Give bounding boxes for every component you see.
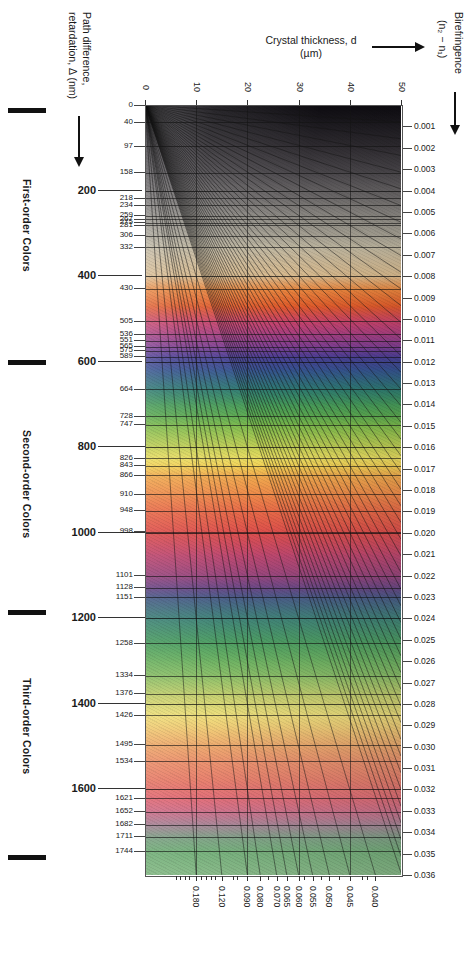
order-label-1: First-order Colors xyxy=(4,179,50,274)
retardation-major-tick: 1200 xyxy=(52,611,96,623)
birefringence-tick-label: 0.010 xyxy=(414,314,435,324)
retardation-minor-tick: 866 xyxy=(99,471,133,479)
retardation-major-tick: 1600 xyxy=(52,782,96,794)
retardation-minor-tick: 158 xyxy=(99,168,133,176)
birefringence-bottom-tick-mark xyxy=(233,876,234,880)
birefringence-bottom-tick-mark xyxy=(185,876,186,880)
color-order-legend: First-order ColorsSecond-order ColorsThi… xyxy=(0,0,52,955)
retardation-minor-tick: 1682 xyxy=(99,820,133,828)
birefringence-bottom-tick-label: 0.065 xyxy=(282,886,292,909)
retardation-minor-tick: 843 xyxy=(99,461,133,469)
retardation-minor-tick: 747 xyxy=(99,420,133,428)
birefringence-bottom-tick-mark xyxy=(299,876,300,881)
birefringence-tick-label: 0.017 xyxy=(414,464,435,474)
thickness-axis-title: Crystal thickness, d (µm) xyxy=(236,34,386,60)
birefringence-bottom-axis: 0.1800.1200.0900.0800.0700.0650.0600.055… xyxy=(145,876,401,955)
thickness-tick-label: 10 xyxy=(192,82,202,94)
retardation-minor-tick: 664 xyxy=(99,385,133,393)
birefringence-bottom-tick-mark xyxy=(277,876,278,881)
thickness-tick-mark xyxy=(401,100,402,105)
birefringence-tick-label: 0.027 xyxy=(414,678,435,688)
thickness-axis: 01020304050 xyxy=(145,60,401,105)
birefringence-tick-label: 0.004 xyxy=(414,186,435,196)
birefringence-tick-label: 0.025 xyxy=(414,635,435,645)
retardation-minor-tick: 1334 xyxy=(99,671,133,679)
retardation-minor-tick: 332 xyxy=(99,243,133,251)
order-separator-bar xyxy=(8,108,46,113)
birefringence-tick-label: 0.023 xyxy=(414,592,435,602)
birefringence-bottom-tick-mark xyxy=(237,876,238,880)
birefringence-bottom-tick-label: 0.120 xyxy=(217,886,227,909)
birefringence-bottom-tick-mark xyxy=(287,876,288,881)
birefringence-tick-label: 0.022 xyxy=(414,571,435,581)
birefringence-bottom-tick-mark xyxy=(215,876,216,880)
order-separator-bar xyxy=(8,855,46,860)
order-label-3: Third-order Colors xyxy=(4,678,50,776)
retardation-axis-title: Path difference, retardation, Δ (nm) xyxy=(62,8,96,158)
birefringence-tick-label: 0.034 xyxy=(414,827,435,837)
birefringence-bottom-tick-mark xyxy=(304,876,305,880)
order-label-text: Third-order Colors xyxy=(21,678,33,774)
birefringence-axis-arrow-icon xyxy=(454,92,456,126)
birefringence-bottom-tick-mark xyxy=(268,876,269,880)
birefringence-tick-label: 0.020 xyxy=(414,528,435,538)
birefringence-bottom-tick-mark xyxy=(196,876,197,881)
birefringence-axis-title: Birefringence (n₂ − n₁) xyxy=(432,8,472,148)
birefringence-axis-title-line1: Birefringence xyxy=(452,12,465,74)
birefringence-bottom-tick-mark xyxy=(350,876,351,881)
birefringence-tick-label: 0.029 xyxy=(414,720,435,730)
birefringence-bottom-tick-mark xyxy=(180,876,181,880)
retardation-minor-tick: 1534 xyxy=(99,757,133,765)
birefringence-bottom-tick-label: 0.055 xyxy=(308,886,318,909)
retardation-minor-tick: 910 xyxy=(99,490,133,498)
birefringence-bottom-tick-label: 0.040 xyxy=(370,886,380,909)
retardation-minor-tick: 1151 xyxy=(99,593,133,601)
birefringence-tick-label: 0.005 xyxy=(414,207,435,217)
thickness-axis-title-line2: (µm) xyxy=(236,47,386,60)
birefringence-tick-label: 0.028 xyxy=(414,699,435,709)
retardation-axis-arrow-icon xyxy=(78,116,80,158)
birefringence-tick-label: 0.003 xyxy=(414,164,435,174)
birefringence-bottom-tick-label: 0.070 xyxy=(272,886,282,909)
birefringence-tick-label: 0.024 xyxy=(414,613,435,623)
retardation-minor-tick: 97 xyxy=(99,142,133,150)
retardation-minor-tick: 1744 xyxy=(99,847,133,855)
birefringence-tick-label: 0.013 xyxy=(414,378,435,388)
retardation-major-tick: 800 xyxy=(52,440,96,452)
retardation-minor-tick: 234 xyxy=(99,201,133,209)
birefringence-bottom-tick-mark xyxy=(206,876,207,880)
order-separator-bar xyxy=(8,610,46,615)
retardation-minor-tick: 1101 xyxy=(99,571,133,579)
birefringence-bottom-tick-mark xyxy=(375,876,376,881)
birefringence-tick-label: 0.026 xyxy=(414,656,435,666)
birefringence-bottom-tick-mark xyxy=(176,876,177,880)
retardation-minor-tick: 1711 xyxy=(99,832,133,840)
thickness-tick-label: 30 xyxy=(295,82,305,94)
thickness-axis-title-line1: Crystal thickness, d xyxy=(236,34,386,47)
thickness-tick-label: 50 xyxy=(397,82,407,94)
birefringence-tick-label: 0.009 xyxy=(414,293,435,303)
birefringence-bottom-tick-mark xyxy=(313,876,314,881)
thickness-tick-label: 0 xyxy=(141,82,151,92)
birefringence-tick-label: 0.033 xyxy=(414,806,435,816)
retardation-major-tick: 1000 xyxy=(52,526,96,538)
birefringence-bottom-tick-mark xyxy=(367,876,368,880)
birefringence-bottom-tick-label: 0.045 xyxy=(345,886,355,909)
retardation-minor-tick: 1621 xyxy=(99,794,133,802)
birefringence-tick-label: 0.012 xyxy=(414,357,435,367)
birefringence-tick-label: 0.035 xyxy=(414,849,435,859)
birefringence-tick-label: 0.030 xyxy=(414,742,435,752)
retardation-minor-tick: 589 xyxy=(99,352,133,360)
interference-color-chart[interactable] xyxy=(145,105,401,875)
birefringence-bottom-tick-mark xyxy=(222,876,223,881)
retardation-minor-tick: 430 xyxy=(99,284,133,292)
retardation-minor-tick: 1376 xyxy=(99,689,133,697)
birefringence-bottom-tick-mark xyxy=(211,876,212,880)
birefringence-bottom-tick-mark xyxy=(201,876,202,880)
birefringence-tick-label: 0.019 xyxy=(414,506,435,516)
birefringence-tick-label: 0.021 xyxy=(414,549,435,559)
paper-grain-overlay xyxy=(145,105,401,875)
birefringence-tick-label: 0.011 xyxy=(414,335,435,345)
thickness-axis-arrow-icon xyxy=(372,46,416,48)
retardation-minor-tick: 40 xyxy=(99,118,133,126)
